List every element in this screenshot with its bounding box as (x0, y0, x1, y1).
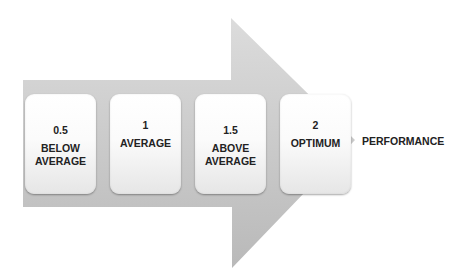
step-box-average: 1 AVERAGE (110, 94, 181, 194)
step-value: 0.5 (25, 124, 96, 137)
step-label: AVERAGE (110, 137, 181, 150)
step-label: OPTIMUM (280, 137, 351, 150)
step-value: 2 (280, 119, 351, 132)
step-label: BELOW AVERAGE (25, 142, 96, 168)
step-box-below-average: 0.5 BELOW AVERAGE (25, 94, 96, 194)
step-box-above-average: 1.5 ABOVE AVERAGE (195, 94, 266, 194)
step-value: 1.5 (195, 124, 266, 137)
step-label: ABOVE AVERAGE (195, 142, 266, 168)
performance-label: PERFORMANCE (362, 135, 444, 147)
step-box-optimum: 2 OPTIMUM (280, 94, 351, 194)
step-value: 1 (110, 119, 181, 132)
